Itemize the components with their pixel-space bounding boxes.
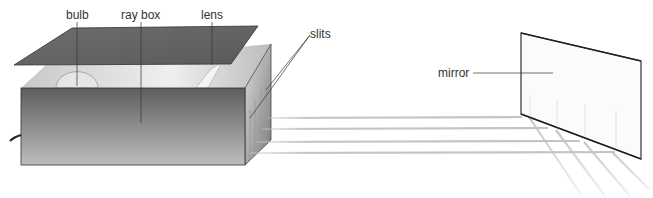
power-cable [10, 135, 21, 141]
label-mirror: mirror [438, 66, 469, 80]
ray-box-diagram: bulb ray box lens slits mirror [0, 0, 653, 198]
label-lens: lens [201, 8, 223, 22]
box-lid [14, 26, 258, 65]
label-bulb: bulb [66, 8, 89, 22]
label-slits: slits [310, 27, 331, 41]
label-ray-box: ray box [121, 8, 160, 22]
box-front-face [21, 88, 245, 165]
